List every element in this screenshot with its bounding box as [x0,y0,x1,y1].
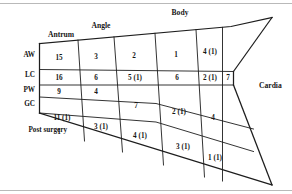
cell-row-gc: 7 2 (1) 4 [134,102,215,122]
cell-value: 4 [94,88,98,96]
cell-value: 2 (1) [203,74,217,82]
cell-value: 5 (1) [128,74,142,82]
cell-value: 7 [134,102,138,110]
post-surgery-total-value: 1 [57,128,61,136]
cell-value: 4 [211,114,215,122]
stomach-region-diagram: Body Angle Antrum Cardia AW LC PW GC Pos… [0,0,292,194]
region-label-antrum: Antrum [48,30,75,39]
row-label-lc: LC [25,71,35,79]
cell-value: 3 (1) [176,143,190,151]
cell-row-lc: 16 6 5 (1) 6 2 (1) 7 [55,74,230,82]
cell-value: 16 [55,74,63,82]
cell-value: 3 [94,53,98,61]
cell-row-pw: 9 4 [57,88,98,96]
cell-value: 2 (1) [172,108,186,116]
row-label-aw: AW [23,51,35,59]
cell-value-cardia: 7 [226,74,230,82]
row-label-gc: GC [24,100,35,108]
column-separators [78,27,223,181]
cell-value: 4 (1) [203,48,217,56]
row-label-pw: PW [23,86,35,94]
cell-value: 3 (1) [94,123,108,131]
cell-value: 1 [174,51,178,59]
region-label-body: Body [172,8,189,17]
cell-value: 9 [57,88,61,96]
cell-value: 4 (1) [133,132,147,140]
cell-value: 2 [132,52,136,60]
cell-value: 1 (1) [208,154,222,162]
region-label-cardia: Cardia [259,81,282,90]
cell-value: 11 (1) [54,114,72,122]
cell-value: 6 [94,74,98,82]
cell-value: 15 [55,54,63,62]
region-label-angle: Angle [92,21,112,30]
row-label-post-surgery: Post surgery [28,126,67,134]
cell-value: 6 [175,74,179,82]
cell-row-aw: 15 3 2 1 4 (1) [55,48,217,62]
